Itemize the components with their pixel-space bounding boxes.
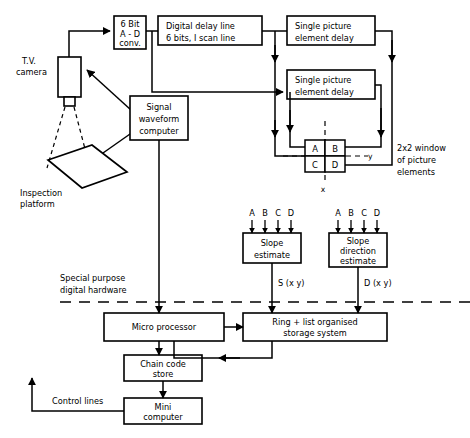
label-slope-direction-line1: Slope: [347, 236, 370, 246]
label-chaincode-line1: Chain code: [140, 359, 186, 369]
label-storage-line2: storage system: [283, 328, 346, 338]
label-adc-line3: conv.: [119, 38, 141, 48]
window-2x2-group: [283, 121, 368, 182]
slope-direction-inputs: [338, 220, 377, 233]
label-cell-d: D: [332, 160, 338, 170]
label-special-purpose-line2: digital hardware: [60, 285, 127, 295]
label-cell-b: B: [332, 144, 338, 154]
label-delay1-line1: Single picture: [295, 21, 351, 31]
slope-estimate-inputs: [252, 220, 291, 233]
tv-camera-body: [58, 57, 81, 97]
label-window-caption-line3: elements: [397, 167, 435, 177]
label-tv-camera-line2: camera: [16, 67, 47, 77]
label-chaincode-line2: store: [153, 369, 174, 379]
label-slope-direction-line2: direction: [340, 246, 376, 256]
label-cell-c: C: [312, 160, 318, 170]
tv-camera-group: [58, 57, 81, 106]
label-special-purpose-line1: Special purpose: [60, 273, 125, 283]
label-slope-estimate-line1: Slope: [261, 238, 284, 248]
label-micro-processor: Micro processor: [132, 322, 197, 332]
label-slope-direction-line3: estimate: [340, 256, 376, 266]
block-diagram-figure: T.V. camera Inspection platform 6 Bit A …: [0, 0, 470, 438]
label-input-a-1: A: [249, 208, 255, 218]
label-delayline-line1: Digital delay line: [166, 21, 235, 31]
label-inspection-platform-line1: Inspection: [20, 188, 62, 198]
label-slope-estimate-line2: estimate: [254, 250, 290, 260]
label-input-b-1: B: [262, 208, 268, 218]
label-input-b-2: B: [348, 208, 354, 218]
wire-left-feed-to-C: [290, 92, 305, 147]
label-waveform-line1: Signal: [146, 102, 171, 112]
label-storage-line1: Ring + list organised: [272, 317, 357, 327]
inspection-platform-shape: [48, 145, 127, 188]
label-input-a-2: A: [335, 208, 341, 218]
label-input-c-1: C: [275, 208, 281, 218]
label-axis-y: y: [368, 152, 373, 161]
label-adc-line1: 6 Bit: [121, 19, 141, 29]
wire-camera-to-adc: [69, 31, 110, 57]
diagram-canvas: T.V. camera Inspection platform 6 Bit A …: [0, 0, 470, 438]
label-delay2-line1: Single picture: [295, 75, 351, 85]
label-delay1-line2: element delay: [295, 33, 354, 43]
label-window-caption-line1: 2x2 window: [397, 143, 446, 153]
label-signal-d: D (x y): [364, 278, 392, 288]
label-window-caption-line2: of picture: [397, 155, 436, 165]
label-input-d-1: D: [288, 208, 294, 218]
wire-control-lines: [32, 378, 124, 411]
tv-camera-lens: [64, 97, 75, 106]
label-tv-camera-line1: T.V.: [21, 56, 36, 66]
label-control-lines: Control lines: [52, 396, 103, 406]
label-delayline-line2: 6 bits, I scan line: [166, 33, 235, 43]
label-delay2-line2: element delay: [295, 87, 354, 97]
label-inspection-platform-line2: platform: [20, 199, 55, 209]
label-mini-computer-line1: Mini: [155, 402, 172, 412]
label-input-c-2: C: [361, 208, 367, 218]
label-waveform-line2: waveform: [139, 114, 180, 124]
label-cell-a: A: [312, 144, 318, 154]
label-mini-computer-line2: computer: [143, 412, 183, 422]
label-signal-s: S (x y): [278, 278, 304, 288]
label-waveform-line3: computer: [139, 126, 179, 136]
label-axis-x: x: [321, 185, 326, 194]
label-input-d-2: D: [374, 208, 380, 218]
